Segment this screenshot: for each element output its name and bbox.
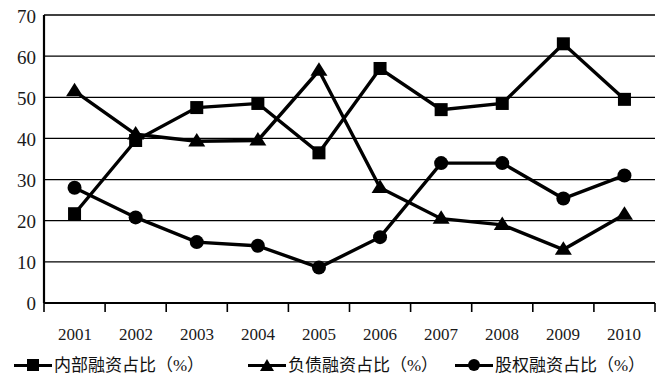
data-point-circle	[373, 230, 387, 244]
data-point-square	[557, 37, 570, 50]
series-line	[75, 163, 625, 268]
triangle-marker-icon	[248, 355, 286, 375]
data-point-circle	[251, 239, 265, 253]
data-point-square	[374, 62, 387, 75]
legend-item-internal-financing[interactable]: 内部融资占比（%）	[14, 352, 204, 378]
data-point-square	[496, 97, 509, 110]
data-point-triangle	[127, 126, 144, 140]
line-chart: 70 60 50 40 30 20 10 0 2001 2002 2003 20…	[0, 0, 665, 380]
x-axis-ticks	[44, 303, 655, 312]
circle-marker-icon	[455, 355, 493, 375]
data-point-circle	[129, 210, 143, 224]
square-marker-icon	[14, 355, 52, 375]
legend-item-equity-financing[interactable]: 股权融资占比（%）	[455, 352, 645, 378]
data-point-square	[312, 146, 325, 159]
legend-label: 内部融资占比（%）	[52, 357, 204, 374]
legend-label: 股权融资占比（%）	[493, 357, 645, 374]
data-point-circle	[312, 261, 326, 275]
data-point-square	[190, 101, 203, 114]
series-triangle	[66, 62, 633, 254]
data-point-square	[618, 93, 631, 106]
legend-item-debt-financing[interactable]: 负债融资占比（%）	[248, 352, 438, 378]
data-point-square	[251, 97, 264, 110]
data-point-circle	[617, 168, 631, 182]
gridlines	[44, 15, 655, 303]
data-series-layer	[66, 37, 633, 274]
data-point-circle	[68, 181, 82, 195]
data-point-triangle	[372, 179, 389, 193]
data-point-circle	[190, 235, 204, 249]
data-point-circle	[556, 191, 570, 205]
data-point-triangle	[310, 62, 327, 76]
data-point-triangle	[66, 83, 83, 97]
data-point-square	[68, 207, 81, 220]
series-circle	[68, 156, 632, 275]
data-point-circle	[495, 156, 509, 170]
legend: 内部融资占比（%） 负债融资占比（%） 股权融资占比（%）	[0, 352, 665, 380]
plot-area	[0, 0, 665, 380]
data-point-circle	[434, 156, 448, 170]
legend-label: 负债融资占比（%）	[286, 357, 438, 374]
data-point-square	[435, 103, 448, 116]
data-point-triangle	[616, 206, 633, 220]
